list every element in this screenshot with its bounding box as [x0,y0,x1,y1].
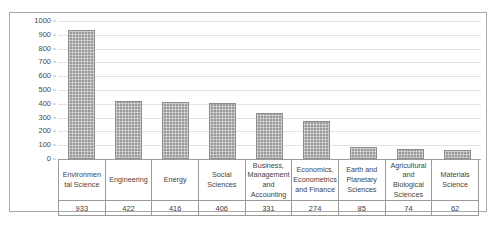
y-axis-tick-mark [53,34,56,35]
y-axis-tick-label: 1000 [34,17,51,25]
table-cell-category: Agricultural and Biological Sciences [385,160,432,201]
table-cell-category: Energy [152,160,199,201]
table-cell-category: Earth and Planetary Sciences [338,160,385,201]
table-cell-category: Materials Science [432,160,479,201]
bar[interactable] [397,149,424,159]
y-axis: 10009008007006005004003002001000 [18,21,56,159]
table-cell-category: Environmen tal Science [59,160,106,201]
table-cell-value: 85 [338,201,385,216]
y-axis-tick-mark [53,159,56,160]
y-axis-tick-label: 300 [38,114,51,122]
y-axis-tick-label: 900 [38,31,51,39]
y-axis-tick-label: 500 [38,86,51,94]
table-cell-category: Economics, Econometrics and Finance [292,160,339,201]
table-row-category-labels: Environmen tal ScienceEngineeringEnergyS… [59,160,479,201]
y-axis-tick-mark [53,90,56,91]
y-axis-tick-label: 200 [38,128,51,136]
bar-slot [387,21,434,159]
bar[interactable] [209,103,236,159]
chart-frame: 10009008007006005004003002001000 Environ… [9,12,487,212]
table-row-values: 933422416406331274857462 [59,201,479,216]
bar-slot [246,21,293,159]
table-cell-value: 331 [245,201,292,216]
bar[interactable] [68,30,95,159]
y-axis-tick-mark [53,103,56,104]
table-cell-category: Business, Management and Accounting [245,160,292,201]
bar[interactable] [303,121,330,159]
y-axis-tick-label: 700 [38,59,51,67]
bar[interactable] [350,147,377,159]
y-axis-tick-label: 0 [47,155,51,163]
y-axis-tick-mark [53,76,56,77]
bar[interactable] [256,113,283,159]
table-cell-value: 274 [292,201,339,216]
table-cell-value: 422 [105,201,152,216]
y-axis-tick-label: 600 [38,72,51,80]
y-axis-tick-mark [53,62,56,63]
table-cell-value: 416 [152,201,199,216]
plot-area [58,21,481,159]
table-cell-category: Engineering [105,160,152,201]
y-axis-tick-mark [53,117,56,118]
table-cell-category: Social Sciences [198,160,245,201]
bar-slot [58,21,105,159]
y-axis-tick-label: 800 [38,45,51,53]
bar-slot [199,21,246,159]
bar[interactable] [115,101,142,159]
bar-series [58,21,481,159]
bar-slot [434,21,481,159]
table-cell-value: 933 [59,201,106,216]
bar-slot [105,21,152,159]
y-axis-tick-label: 400 [38,100,51,108]
bar-slot [293,21,340,159]
bar-slot [152,21,199,159]
data-table: Environmen tal ScienceEngineeringEnergyS… [58,159,479,216]
table-cell-value: 62 [432,201,479,216]
y-axis-tick-label: 100 [38,141,51,149]
bar[interactable] [162,102,189,159]
y-axis-tick-mark [53,21,56,22]
table-cell-value: 406 [198,201,245,216]
y-axis-tick-mark [53,48,56,49]
y-axis-tick-mark [53,145,56,146]
y-axis-tick-mark [53,131,56,132]
bar[interactable] [444,150,471,159]
table-cell-value: 74 [385,201,432,216]
bar-slot [340,21,387,159]
